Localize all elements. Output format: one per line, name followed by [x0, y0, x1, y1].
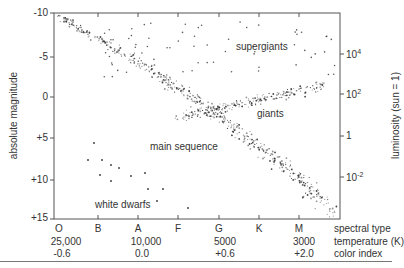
left-tick-label: +10 — [18, 174, 48, 185]
left-tick-label: +15 — [18, 212, 48, 223]
annotation-giants: giants — [257, 108, 284, 119]
temperature-label: 25,000 — [41, 236, 91, 247]
right-tick-label: 1 — [346, 130, 352, 141]
color-index-label: +0.6 — [200, 248, 250, 259]
star-points — [57, 15, 337, 218]
row-title-temperature: temperature (K) — [334, 236, 404, 247]
left-tick-label: -10 — [18, 7, 48, 18]
color-index-label: 0.0 — [117, 248, 167, 259]
annotation-main-sequence: main sequence — [150, 141, 218, 152]
temperature-label: 10,000 — [121, 236, 171, 247]
y-axis-title-right: luminosity (sun = 1) — [390, 56, 401, 176]
left-tick-label: 0 — [18, 91, 48, 102]
left-tick-label: -5 — [18, 51, 48, 62]
left-tick-label: +5 — [18, 132, 48, 143]
bottom-rule — [0, 261, 392, 262]
y-axis-title-left: absolute magnitude — [8, 66, 19, 166]
row-title-spectral: spectral type — [334, 223, 391, 234]
annotation-supergiants: supergiants — [236, 41, 288, 52]
temperature-label: 5000 — [200, 236, 250, 247]
row-title-color-index: color index — [334, 248, 382, 259]
right-tick-label: 102 — [346, 88, 361, 100]
spectral-type-label: M — [274, 223, 324, 234]
right-tick-label: 104 — [346, 48, 361, 60]
annotation-white-dwarfs: white dwarfs — [95, 199, 151, 210]
right-tick-label: 10-2 — [346, 171, 363, 183]
color-index-label: +2.0 — [279, 248, 329, 259]
color-index-label: -0.6 — [37, 248, 87, 259]
temperature-label: 3000 — [279, 236, 329, 247]
